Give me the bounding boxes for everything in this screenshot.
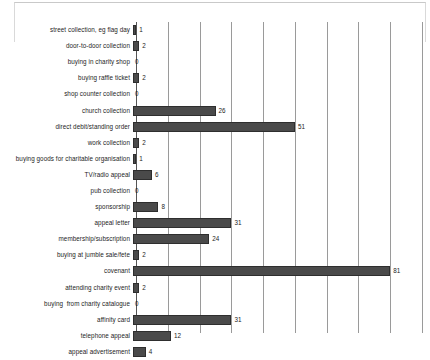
category-label: shop counter collection bbox=[0, 90, 133, 98]
bar bbox=[133, 283, 139, 293]
chart-row: street collection, eg flag day1 bbox=[0, 22, 430, 38]
bar-track: 2 bbox=[133, 135, 430, 151]
bar bbox=[133, 202, 158, 212]
bar-value-label: 1 bbox=[139, 26, 143, 34]
bar bbox=[133, 106, 216, 116]
bar-value-label: 0 bbox=[135, 58, 139, 66]
bar-track: 2 bbox=[133, 280, 430, 296]
bar bbox=[133, 138, 139, 148]
bar-track: 81 bbox=[133, 263, 430, 279]
bar-track: 12 bbox=[133, 328, 430, 344]
chart-row: telephone appeal12 bbox=[0, 328, 430, 344]
category-label: pub collection bbox=[0, 187, 133, 195]
category-label: buying at jumble sale/fete bbox=[0, 251, 133, 259]
category-label: attending charity event bbox=[0, 284, 133, 292]
bar bbox=[133, 122, 295, 132]
bar-track: 51 bbox=[133, 119, 430, 135]
bar-track: 0 bbox=[133, 296, 430, 312]
chart-row: work collection2 bbox=[0, 135, 430, 151]
bar-track: 1 bbox=[133, 22, 430, 38]
bar bbox=[133, 347, 146, 357]
bar-value-label: 4 bbox=[149, 348, 153, 356]
chart-row: direct debit/standing order51 bbox=[0, 119, 430, 135]
bar bbox=[133, 266, 390, 276]
bar-value-label: 0 bbox=[135, 187, 139, 195]
bar-track: 26 bbox=[133, 102, 430, 118]
chart-row: door-to-door collection2 bbox=[0, 38, 430, 54]
bar-track: 24 bbox=[133, 231, 430, 247]
bar-track: 4 bbox=[133, 344, 430, 360]
chart-row: pub collection0 bbox=[0, 183, 430, 199]
bar-value-label: 0 bbox=[135, 300, 139, 308]
bar-value-label: 2 bbox=[142, 74, 146, 82]
chart-row: covenant81 bbox=[0, 263, 430, 279]
category-label: direct debit/standing order bbox=[0, 123, 133, 131]
bar-value-label: 1 bbox=[139, 155, 143, 163]
bar-track: 0 bbox=[133, 183, 430, 199]
bar-value-label: 2 bbox=[142, 139, 146, 147]
chart-row: membership/subscription24 bbox=[0, 231, 430, 247]
bar-track: 6 bbox=[133, 167, 430, 183]
bar-track: 2 bbox=[133, 38, 430, 54]
bar-value-label: 2 bbox=[142, 251, 146, 259]
bar-rows: street collection, eg flag day1door-to-d… bbox=[0, 22, 430, 360]
category-label: appeal advertisement bbox=[0, 348, 133, 356]
chart-row: TV/radio appeal6 bbox=[0, 167, 430, 183]
chart-row: buying from charity catalogue0 bbox=[0, 296, 430, 312]
chart-row: buying goods for charitable organisation… bbox=[0, 151, 430, 167]
bar bbox=[133, 41, 139, 51]
chart-row: buying in charity shop0 bbox=[0, 54, 430, 70]
bar bbox=[133, 73, 139, 83]
category-label: buying in charity shop bbox=[0, 58, 133, 66]
category-label: buying from charity catalogue bbox=[0, 300, 133, 308]
bar-track: 2 bbox=[133, 247, 430, 263]
bar-track: 31 bbox=[133, 312, 430, 328]
category-label: telephone appeal bbox=[0, 332, 133, 340]
bar-value-label: 26 bbox=[219, 107, 226, 115]
bar-value-label: 51 bbox=[298, 123, 305, 131]
category-label: work collection bbox=[0, 139, 133, 147]
bar bbox=[133, 218, 231, 228]
chart-row: buying raffle ticket2 bbox=[0, 70, 430, 86]
bar-value-label: 6 bbox=[155, 171, 159, 179]
bar-value-label: 24 bbox=[212, 235, 219, 243]
chart-row: sponsorship8 bbox=[0, 199, 430, 215]
bar bbox=[133, 25, 136, 35]
category-label: church collection bbox=[0, 107, 133, 115]
bar bbox=[133, 250, 139, 260]
bar-value-label: 8 bbox=[161, 203, 165, 211]
category-label: door-to-door collection bbox=[0, 42, 133, 50]
bar bbox=[133, 234, 209, 244]
bar-value-label: 81 bbox=[393, 267, 400, 275]
bar-value-label: 0 bbox=[135, 90, 139, 98]
bar-track: 1 bbox=[133, 151, 430, 167]
bar-track: 0 bbox=[133, 86, 430, 102]
category-label: buying goods for charitable organisation bbox=[0, 155, 133, 163]
bar-value-label: 31 bbox=[234, 219, 241, 227]
chart-row: appeal letter31 bbox=[0, 215, 430, 231]
bar bbox=[133, 315, 231, 325]
category-label: covenant bbox=[0, 267, 133, 275]
category-label: TV/radio appeal bbox=[0, 171, 133, 179]
category-label: membership/subscription bbox=[0, 235, 133, 243]
chart-row: appeal advertisement4 bbox=[0, 344, 430, 360]
bar-value-label: 31 bbox=[234, 316, 241, 324]
category-label: sponsorship bbox=[0, 203, 133, 211]
chart-row: buying at jumble sale/fete2 bbox=[0, 247, 430, 263]
category-label: buying raffle ticket bbox=[0, 74, 133, 82]
bar-track: 0 bbox=[133, 54, 430, 70]
bar-track: 2 bbox=[133, 70, 430, 86]
chart-row: church collection26 bbox=[0, 102, 430, 118]
category-label: street collection, eg flag day bbox=[0, 26, 133, 34]
chart-row: affinity card31 bbox=[0, 312, 430, 328]
chart-row: attending charity event2 bbox=[0, 280, 430, 296]
bar-track: 31 bbox=[133, 215, 430, 231]
bar-value-label: 2 bbox=[142, 284, 146, 292]
chart-row: shop counter collection0 bbox=[0, 86, 430, 102]
bar-value-label: 12 bbox=[174, 332, 181, 340]
bar bbox=[133, 170, 152, 180]
bar-value-label: 2 bbox=[142, 42, 146, 50]
bar bbox=[133, 154, 136, 164]
